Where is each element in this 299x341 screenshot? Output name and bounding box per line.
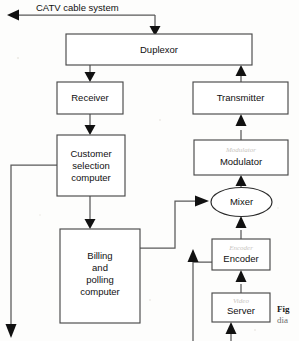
node-billing-polling-computer[interactable]: Billing and polling computer [60,229,140,323]
node-encoder-label: Encoder [223,253,258,264]
figure-caption: Fig dia [277,304,290,325]
node-server-ghost-label: Video [233,297,249,305]
edge-mixer-modulator [236,175,247,188]
node-encoder-ghost-label: Encoder [228,244,253,252]
edge-billing-mixer [140,196,209,249]
node-server-label: Server [227,305,255,316]
node-customer-line-1: Customer [70,148,111,159]
edge-duplexor-receiver [85,65,96,82]
node-transmitter-label: Transmitter [217,92,265,103]
edge-modulator-transmitter [236,114,247,140]
node-billing-line-1: Billing [87,250,112,261]
node-billing-line-3: polling [86,274,113,285]
edge-server-encoder [236,270,247,293]
caption-figure-text: dia [277,315,288,325]
edge-label-catv: CATV cable system [36,2,119,13]
node-server[interactable]: Video Server [212,293,270,322]
node-duplexor[interactable]: Duplexor [66,34,252,65]
edge-server-bottom-feed [226,322,237,341]
edge-transmitter-duplexor [236,65,247,82]
node-customer-selection-computer[interactable]: Customer selection computer [57,135,125,196]
node-customer-line-2: selection [72,160,110,171]
edge-external-encoder [188,249,213,341]
node-receiver-label: Receiver [71,92,109,103]
edge-customer-billing [85,196,96,229]
node-customer-line-3: computer [71,172,111,183]
caption-figure-prefix: Fig [277,304,290,314]
node-modulator-ghost-label: Modulator [225,146,256,154]
node-receiver[interactable]: Receiver [57,82,123,114]
node-billing-line-2: and [92,262,108,273]
node-encoder[interactable]: Encoder Encoder [212,239,270,270]
edge-receiver-customer [85,114,96,135]
node-mixer[interactable]: Mixer [211,188,272,217]
node-mixer-label: Mixer [230,196,253,207]
node-billing-line-4: computer [80,286,120,297]
edge-catv-in [150,15,161,36]
node-modulator-label: Modulator [220,156,262,167]
block-diagram: Duplexor Receiver Transmitter Customer s… [0,0,299,341]
edge-customer-feedback [6,165,58,338]
node-transmitter[interactable]: Transmitter [193,82,288,114]
node-modulator[interactable]: Modulator Modulator [194,140,288,175]
diagram-canvas: Duplexor Receiver Transmitter Customer s… [0,0,299,341]
node-duplexor-label: Duplexor [140,44,178,55]
edge-encoder-mixer [236,216,247,239]
